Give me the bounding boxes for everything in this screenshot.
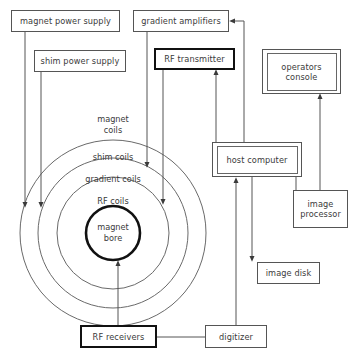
- node-operators-console[interactable]: operators console: [262, 49, 341, 94]
- node-host-computer[interactable]: host computer: [212, 142, 302, 177]
- node-magnet-power-supply[interactable]: magnet power supply: [11, 10, 120, 32]
- node-digitizer[interactable]: digitizer: [205, 325, 267, 348]
- operators-console-inner: operators console: [267, 53, 337, 91]
- node-gradient-amplifiers[interactable]: gradient amplifiers: [133, 10, 229, 32]
- node-image-processor[interactable]: image processor: [293, 190, 348, 228]
- wire-host-to-gradient-amplifiers: [232, 21, 244, 142]
- node-rf-transmitter[interactable]: RF transmitter: [154, 48, 235, 70]
- ring-label-rf-coils: RF coils: [76, 196, 150, 207]
- node-rf-receivers[interactable]: RF receivers: [80, 325, 157, 348]
- mri-system-diagram: magnet coils shim coils gradient coils R…: [0, 0, 356, 356]
- node-shim-power-supply[interactable]: shim power supply: [34, 50, 126, 72]
- ring-label-shim-coils: shim coils: [76, 152, 150, 163]
- ring-label-gradient-coils: gradient coils: [66, 174, 160, 185]
- node-image-disk[interactable]: image disk: [257, 262, 320, 284]
- host-computer-inner: host computer: [217, 146, 298, 174]
- ring-label-magnet-bore: magnet bore: [83, 222, 143, 243]
- ring-label-magnet-coils: magnet coils: [83, 114, 143, 135]
